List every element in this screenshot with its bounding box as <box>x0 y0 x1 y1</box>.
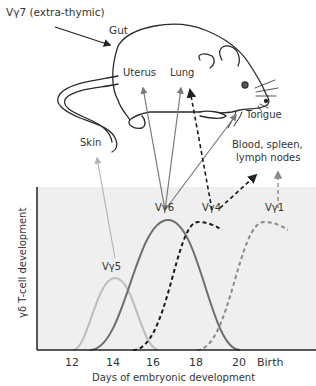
label-gut: Gut <box>109 24 128 36</box>
vg7-arrow <box>55 27 110 45</box>
label-vg6: Vγ6 <box>155 202 174 213</box>
label-blood-line1: Blood, spleen, <box>232 139 303 150</box>
gamma-delta-tcell-figure: Vγ7 (extra-thymic) Gut Uterus Lung Tongu… <box>0 0 316 386</box>
label-blood-line2: lymph nodes <box>236 152 300 163</box>
x-tick-16: 16 <box>146 356 160 369</box>
label-tongue: Tongue <box>245 109 282 120</box>
x-tick-20: 20 <box>232 356 246 369</box>
label-vg1: Vγ1 <box>265 202 284 213</box>
label-lung: Lung <box>170 67 194 78</box>
label-uterus: Uterus <box>123 67 156 78</box>
label-skin: Skin <box>80 137 101 148</box>
x-tick-birth: Birth <box>257 356 283 369</box>
x-axis-label: Days of embryonic development <box>92 372 255 383</box>
mouse-illustration <box>58 24 278 152</box>
x-tick-12: 12 <box>65 356 79 369</box>
label-vg7: Vγ7 (extra-thymic) <box>6 6 105 18</box>
label-vg4: Vγ4 <box>202 202 221 213</box>
y-axis-label: γδ T-cell development <box>17 208 28 318</box>
x-tick-14: 14 <box>106 356 120 369</box>
x-tick-18: 18 <box>189 356 203 369</box>
label-vg5: Vγ5 <box>102 261 121 272</box>
